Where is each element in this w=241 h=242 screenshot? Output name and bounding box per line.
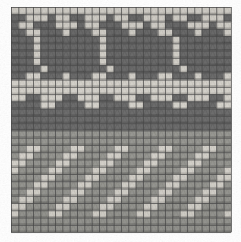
textile-swatch-image bbox=[0, 0, 241, 242]
knit-stitch-grid bbox=[0, 0, 241, 242]
